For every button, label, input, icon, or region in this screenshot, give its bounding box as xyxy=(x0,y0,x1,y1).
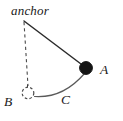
point-a-label: A xyxy=(100,63,108,77)
dashed-rod-to-b xyxy=(24,22,28,86)
solid-rod-to-a xyxy=(24,21,85,67)
swing-arc xyxy=(35,74,85,97)
anchor-label: anchor xyxy=(11,4,49,17)
bob-a-filled-circle xyxy=(80,62,93,75)
arc-c-label: C xyxy=(61,93,70,107)
point-b-label: B xyxy=(4,95,12,109)
bob-b-open-circle xyxy=(22,87,34,99)
pendulum-diagram: anchor A B C xyxy=(0,0,123,121)
